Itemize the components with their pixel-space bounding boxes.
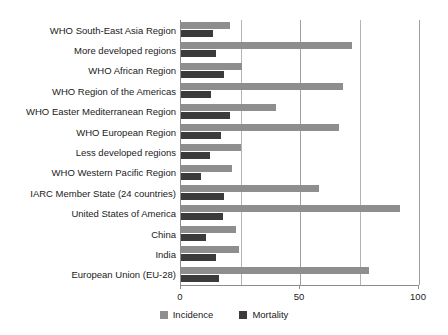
bar-row xyxy=(181,102,418,122)
bar-mortality xyxy=(181,213,223,220)
bar-row xyxy=(181,142,418,162)
y-axis-label: WHO Easter Mediterranean Region xyxy=(0,106,176,117)
y-axis-label: European Union (EU-28) xyxy=(0,269,176,280)
bar-incidence xyxy=(181,165,232,172)
bar-rows xyxy=(181,20,418,285)
bar-row xyxy=(181,61,418,81)
bar-incidence xyxy=(181,104,276,111)
bar-row xyxy=(181,81,418,101)
bar-mortality xyxy=(181,112,230,119)
x-tick-label: 0 xyxy=(177,291,182,302)
bar-incidence xyxy=(181,144,241,151)
legend-label: Mortality xyxy=(252,309,288,320)
y-axis-label: More developed regions xyxy=(0,45,176,56)
bar-incidence xyxy=(181,42,352,49)
bar-incidence xyxy=(181,83,343,90)
y-axis-label: Less developed regions xyxy=(0,147,176,158)
breast-cancer-incidence-mortality-bar-chart: WHO South-East Asia RegionMore developed… xyxy=(0,0,448,335)
bar-mortality xyxy=(181,275,219,282)
bar-row xyxy=(181,203,418,223)
x-tick-100 xyxy=(418,285,419,289)
y-axis-label: WHO Western Pacific Region xyxy=(0,167,176,178)
y-axis-label: United States of America xyxy=(0,208,176,219)
bar-mortality xyxy=(181,50,216,57)
legend-label: Incidence xyxy=(173,309,214,320)
y-axis-label: WHO Region of the Americas xyxy=(0,86,176,97)
bar-mortality xyxy=(181,254,216,261)
y-axis-label: IARC Member State (24 countries) xyxy=(0,188,176,199)
bar-mortality xyxy=(181,234,206,241)
bar-incidence xyxy=(181,22,230,29)
bar-row xyxy=(181,20,418,40)
bar-row xyxy=(181,122,418,142)
x-tick-label: 100 xyxy=(410,291,426,302)
bar-incidence xyxy=(181,267,369,274)
bar-incidence xyxy=(181,246,239,253)
chart-legend: IncidenceMortality xyxy=(0,309,448,320)
bar-incidence xyxy=(181,124,339,131)
plot-area xyxy=(180,20,418,285)
bar-mortality xyxy=(181,152,210,159)
bar-incidence xyxy=(181,185,319,192)
x-tick-50 xyxy=(299,285,300,289)
bar-row xyxy=(181,265,418,285)
bar-mortality xyxy=(181,132,221,139)
bar-incidence xyxy=(181,226,236,233)
x-tick-0 xyxy=(180,285,181,289)
bar-row xyxy=(181,224,418,244)
bar-mortality xyxy=(181,193,224,200)
y-axis-label: China xyxy=(0,229,176,240)
y-axis-label: WHO South-East Asia Region xyxy=(0,25,176,36)
bar-mortality xyxy=(181,173,201,180)
bar-row xyxy=(181,183,418,203)
legend-item: Incidence xyxy=(160,309,214,320)
y-axis-label: WHO African Region xyxy=(0,65,176,76)
x-tick-label: 50 xyxy=(294,291,305,302)
y-axis-label: WHO European Region xyxy=(0,127,176,138)
bar-row xyxy=(181,40,418,60)
bar-incidence xyxy=(181,63,242,70)
bar-row xyxy=(181,244,418,264)
legend-item: Mortality xyxy=(239,309,288,320)
gridline-100 xyxy=(419,20,420,285)
bar-mortality xyxy=(181,30,213,37)
legend-swatch-icon xyxy=(160,311,168,319)
bar-row xyxy=(181,163,418,183)
bar-mortality xyxy=(181,91,211,98)
y-axis-labels: WHO South-East Asia RegionMore developed… xyxy=(0,20,176,285)
bar-mortality xyxy=(181,71,224,78)
legend-swatch-icon xyxy=(239,311,247,319)
bar-incidence xyxy=(181,205,400,212)
y-axis-label: India xyxy=(0,249,176,260)
